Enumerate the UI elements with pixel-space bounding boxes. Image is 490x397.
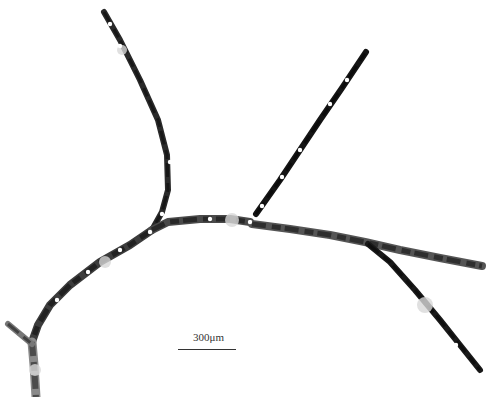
septum-gap xyxy=(208,217,212,221)
septum-gap xyxy=(428,318,432,322)
septum-gap xyxy=(454,343,458,347)
light-patch xyxy=(29,364,41,376)
micrograph-canvas xyxy=(0,0,490,397)
septum-gap xyxy=(298,148,302,152)
septum-gap xyxy=(108,22,112,26)
septum-gap xyxy=(328,102,332,106)
septum-gap xyxy=(118,44,122,48)
septum-gap xyxy=(160,212,164,216)
septum-gap xyxy=(148,230,152,234)
septum-gap xyxy=(280,175,284,179)
septum-gap xyxy=(86,270,90,274)
septum-gap xyxy=(168,160,172,164)
septum-gap xyxy=(260,204,264,208)
scale-bar-label: 300μm xyxy=(193,331,224,343)
light-patch xyxy=(225,213,239,227)
septum-gap xyxy=(55,298,59,302)
background xyxy=(0,0,490,397)
septum-gap xyxy=(118,248,122,252)
light-patch xyxy=(417,297,433,313)
septum-gap xyxy=(345,78,349,82)
light-patch xyxy=(99,256,111,268)
septum-gap xyxy=(248,220,252,224)
scale-bar xyxy=(178,349,236,350)
